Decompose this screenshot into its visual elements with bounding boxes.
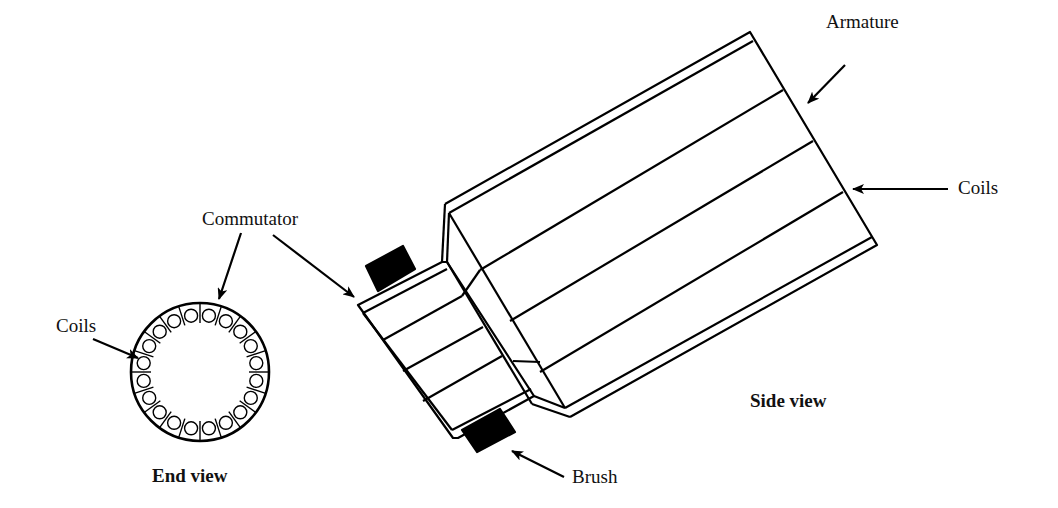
end-view-ring <box>131 303 269 441</box>
coil-icon <box>137 357 150 370</box>
arrow-brush <box>512 451 564 477</box>
coil-icon <box>244 340 257 353</box>
motor-diagram <box>0 0 1058 508</box>
arrow-commutator-side <box>273 235 354 297</box>
coil-icon <box>219 315 232 328</box>
coil-icon <box>234 406 247 419</box>
armature-coil-line <box>540 192 843 372</box>
coil-icon <box>185 309 198 322</box>
coil-icon <box>202 309 215 322</box>
coil-icon <box>250 374 263 387</box>
coil-icon <box>153 406 166 419</box>
arrow-commutator-end <box>219 233 241 299</box>
coil-icon <box>185 422 198 435</box>
arrows <box>93 65 948 477</box>
commutator-segment-line <box>423 356 502 401</box>
coil-icon <box>143 340 156 353</box>
coil-icon <box>234 325 247 338</box>
end-view <box>131 303 269 441</box>
armature <box>442 32 877 417</box>
coil-icon <box>219 416 232 429</box>
arrow-coils-end <box>93 339 138 358</box>
label-commutator: Commutator <box>202 209 298 228</box>
coil-icon <box>202 422 215 435</box>
coil-icon <box>143 391 156 404</box>
label-brush: Brush <box>572 467 617 486</box>
label-coils-end: Coils <box>56 316 96 335</box>
side-view <box>358 32 877 452</box>
label-coils-side: Coils <box>958 178 998 197</box>
coil-icon <box>168 315 181 328</box>
commutator-segment-line <box>383 296 462 340</box>
coil-icon <box>137 374 150 387</box>
arrow-armature <box>808 65 845 103</box>
label-side-view: Side view <box>750 391 827 410</box>
coil-icon <box>244 391 257 404</box>
label-armature: Armature <box>826 12 899 31</box>
taper <box>447 262 570 417</box>
coil-icon <box>168 416 181 429</box>
label-end-view: End view <box>152 466 228 485</box>
commutator-segment-line <box>403 327 483 371</box>
brush-bottom <box>462 409 515 452</box>
coil-icon <box>153 325 166 338</box>
brush-top <box>366 246 415 291</box>
armature-coil-line <box>480 90 783 270</box>
coil-icon <box>250 357 263 370</box>
